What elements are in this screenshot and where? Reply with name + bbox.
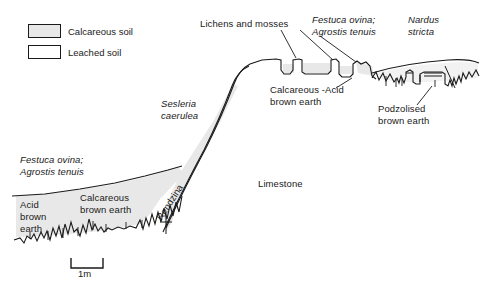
legend-label-leached-soil: Leached soil — [68, 47, 121, 58]
label-podzolised-brown-earth-line2: brown earth — [378, 115, 429, 127]
plateau-pocket-fill-2 — [303, 63, 330, 73]
label-agrostis-tenuis-top: Agrostis tenuis — [312, 26, 376, 38]
label-calcareous-brown-earth-line2: brown earth — [80, 204, 131, 216]
label-acid-brown-earth-line3: earth — [20, 223, 42, 235]
label-acid-brown-earth-line2: brown — [20, 211, 46, 223]
legend-swatch-leached-soil — [28, 45, 61, 59]
legend-item-leached-soil: Leached soil — [28, 45, 121, 59]
legend-label-calcareous-soil: Calcareous soil — [68, 26, 133, 37]
label-calcareous-acid-brown-earth-line1: Calcareous -Acid — [270, 84, 344, 96]
plateau-pocket-fill-3 — [340, 66, 354, 74]
scale-bar-label: 1m — [78, 268, 91, 279]
label-stricta: stricta — [408, 26, 434, 38]
label-lichens-and-mosses: Lichens and mosses — [200, 18, 288, 30]
label-calcareous-brown-earth-line1: Calcareous — [80, 192, 129, 204]
label-acid-brown-earth-line1: Acid — [20, 199, 39, 211]
legend-item-calcareous-soil: Calcareous soil — [28, 24, 133, 38]
label-nardus: Nardus — [408, 14, 439, 26]
label-caerulea: caerulea — [161, 110, 198, 122]
cross-section-drawing — [0, 0, 486, 292]
legend-swatch-calcareous-soil — [28, 24, 61, 38]
label-festuca-ovina-left: Festuca ovina; — [20, 154, 83, 166]
leader-festuca-top — [320, 36, 356, 62]
leader-lichens-left — [281, 30, 296, 58]
label-agrostis-tenuis-left: Agrostis tenuis — [20, 166, 84, 178]
scale-bar — [71, 258, 103, 268]
label-sesleria: Sesleria — [161, 98, 196, 110]
soil-cross-section-diagram: Calcareous soil Leached soil Lichens and… — [0, 0, 486, 292]
label-podzolised-brown-earth-line1: Podzolised — [378, 103, 425, 115]
label-limestone: Limestone — [258, 178, 303, 190]
label-calcareous-acid-brown-earth-line2: brown earth — [270, 96, 321, 108]
label-festuca-ovina-top: Festuca ovina; — [312, 14, 375, 26]
slope-upper-line — [166, 64, 250, 228]
